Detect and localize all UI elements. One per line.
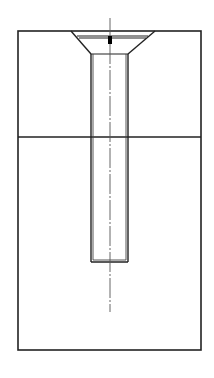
technical-drawing <box>0 0 214 378</box>
countersink-left-edge <box>71 31 91 54</box>
block-outline <box>18 31 201 350</box>
center-mark <box>108 36 112 44</box>
countersink-right-edge <box>128 31 155 54</box>
drawing-canvas <box>0 0 214 378</box>
